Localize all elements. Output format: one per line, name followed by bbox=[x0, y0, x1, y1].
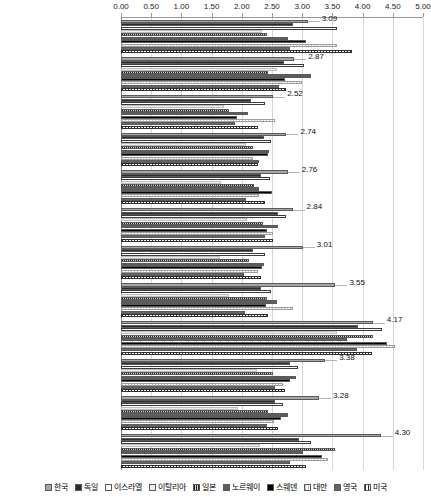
data-label: 2.74 bbox=[300, 127, 316, 136]
legend-label: 이탈리아 bbox=[158, 483, 186, 492]
data-label-leader bbox=[319, 398, 331, 399]
legend-item-독일[interactable]: 독일 bbox=[75, 483, 98, 492]
bar-미국 bbox=[121, 389, 285, 392]
category-group: 기업가적 금융3.28 bbox=[121, 395, 423, 433]
data-label-leader bbox=[335, 285, 347, 286]
data-label: 2.87 bbox=[308, 52, 324, 61]
category-group: 학교 단계의 기업가교육2.52 bbox=[121, 93, 423, 131]
x-tick-label: 5.00 bbox=[415, 2, 431, 12]
category-group: 문화사회 규범3.09 bbox=[121, 18, 423, 56]
data-label: 2.84 bbox=[307, 202, 323, 211]
legend-swatch-icon bbox=[193, 484, 200, 491]
category-group: 내부시장 역동성4.30 bbox=[121, 432, 423, 470]
x-tick-label: 0.50 bbox=[143, 2, 159, 12]
legend-item-노르웨이[interactable]: 노르웨이 bbox=[223, 483, 260, 492]
category-group: R&D 이전2.76 bbox=[121, 169, 423, 207]
category-group: 학교교육 이후 단계의 기업가교육2.84 bbox=[121, 206, 423, 244]
legend-label: 스웨덴 bbox=[276, 483, 297, 492]
data-label: 4.30 bbox=[395, 428, 411, 437]
chart-legend: 한국독일이스라엘이탈리아일본노르웨이스웨덴대만영국미국 bbox=[0, 478, 431, 496]
legend-item-영국[interactable]: 영국 bbox=[334, 483, 357, 492]
legend-label: 일본 bbox=[202, 483, 216, 492]
legend-swatch-icon bbox=[304, 484, 311, 491]
x-tick-label: 2.00 bbox=[234, 2, 250, 12]
bar-미국 bbox=[121, 465, 306, 468]
legend-swatch-icon bbox=[75, 484, 82, 491]
category-group: 내부시장 개방성2.74 bbox=[121, 131, 423, 169]
data-label-leader bbox=[288, 172, 300, 173]
data-label: 4.17 bbox=[387, 315, 403, 324]
category-group: 정부정책-조세 및 관료제3.01 bbox=[121, 244, 423, 282]
bar-미국 bbox=[121, 352, 372, 355]
x-axis: 0.000.501.001.502.002.503.003.504.004.50… bbox=[0, 0, 431, 18]
legend-swatch-icon bbox=[364, 484, 371, 491]
legend-item-이탈리아[interactable]: 이탈리아 bbox=[149, 483, 186, 492]
legend-label: 영국 bbox=[343, 483, 357, 492]
legend-label: 독일 bbox=[84, 483, 98, 492]
gridline bbox=[423, 18, 424, 470]
data-label: 2.52 bbox=[287, 89, 303, 98]
legend-swatch-icon bbox=[223, 484, 230, 491]
bar-미국 bbox=[121, 276, 261, 279]
bar-미국 bbox=[121, 163, 258, 166]
legend-label: 미국 bbox=[373, 483, 387, 492]
x-tick-label: 3.00 bbox=[294, 2, 310, 12]
x-tick-label: 2.50 bbox=[264, 2, 280, 12]
legend-item-일본[interactable]: 일본 bbox=[193, 483, 216, 492]
legend-item-미국[interactable]: 미국 bbox=[364, 483, 387, 492]
bar-chart: 0.000.501.001.502.002.503.003.504.004.50… bbox=[0, 0, 431, 503]
bar-미국 bbox=[121, 201, 265, 204]
data-label: 3.01 bbox=[317, 240, 333, 249]
legend-label: 한국 bbox=[54, 483, 68, 492]
legend-label: 이스라엘 bbox=[114, 483, 142, 492]
legend-item-한국[interactable]: 한국 bbox=[45, 483, 68, 492]
bar-미국 bbox=[121, 88, 286, 91]
data-label-leader bbox=[294, 59, 306, 60]
category-group: 상업 및 전문가 인프라2.87 bbox=[121, 56, 423, 94]
legend-swatch-icon bbox=[105, 484, 112, 491]
bar-미국 bbox=[121, 427, 278, 430]
legend-item-이스라엘[interactable]: 이스라엘 bbox=[105, 483, 142, 492]
x-tick-label: 4.00 bbox=[355, 2, 371, 12]
x-tick-label: 0.00 bbox=[113, 2, 129, 12]
data-label-leader bbox=[303, 247, 315, 248]
data-label-leader bbox=[293, 210, 305, 211]
legend-label: 노르웨이 bbox=[232, 483, 260, 492]
x-tick-label: 1.50 bbox=[204, 2, 220, 12]
legend-swatch-icon bbox=[334, 484, 341, 491]
category-group: 물적 서비스 인프라4.17 bbox=[121, 319, 423, 357]
x-tick-label: 4.50 bbox=[385, 2, 401, 12]
data-label: 2.76 bbox=[302, 165, 318, 174]
data-label-leader bbox=[373, 323, 385, 324]
x-tick-label: 3.50 bbox=[325, 2, 341, 12]
category-group: 정부정책 프로그램3.38 bbox=[121, 357, 423, 395]
data-label: 3.55 bbox=[349, 278, 365, 287]
bar-미국 bbox=[121, 314, 268, 317]
data-label: 3.38 bbox=[339, 353, 355, 362]
data-label-leader bbox=[286, 134, 298, 135]
data-label-leader bbox=[381, 436, 393, 437]
category-group: 정부정책-지원3.55 bbox=[121, 282, 423, 320]
data-label-leader bbox=[308, 21, 320, 22]
legend-swatch-icon bbox=[45, 484, 52, 491]
legend-item-대만[interactable]: 대만 bbox=[304, 483, 327, 492]
data-label: 3.09 bbox=[322, 14, 338, 23]
legend-swatch-icon bbox=[267, 484, 274, 491]
bar-미국 bbox=[121, 126, 258, 129]
legend-item-스웨덴[interactable]: 스웨덴 bbox=[267, 483, 297, 492]
bar-미국 bbox=[121, 239, 273, 242]
legend-label: 대만 bbox=[313, 483, 327, 492]
data-label-leader bbox=[325, 360, 337, 361]
data-label-leader bbox=[273, 97, 285, 98]
legend-swatch-icon bbox=[149, 484, 156, 491]
data-label: 3.28 bbox=[333, 391, 349, 400]
x-tick-mark bbox=[423, 13, 424, 17]
x-tick-label: 1.00 bbox=[174, 2, 190, 12]
plot-area: 문화사회 규범3.09상업 및 전문가 인프라2.87학교 단계의 기업가교육2… bbox=[121, 18, 423, 470]
